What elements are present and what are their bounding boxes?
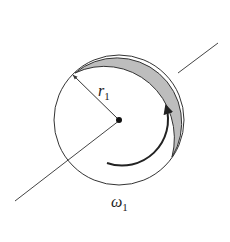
radius-label: r1 — [98, 82, 110, 102]
axis-line-lower — [15, 120, 120, 201]
disk-diagram: r1 ω1 — [0, 0, 230, 242]
axis-line-upper — [178, 43, 218, 73]
radius-arrow — [73, 75, 119, 120]
center-pivot-dot — [116, 117, 122, 123]
rotation-arrow-icon — [107, 106, 168, 166]
angular-velocity-label: ω1 — [111, 193, 128, 213]
